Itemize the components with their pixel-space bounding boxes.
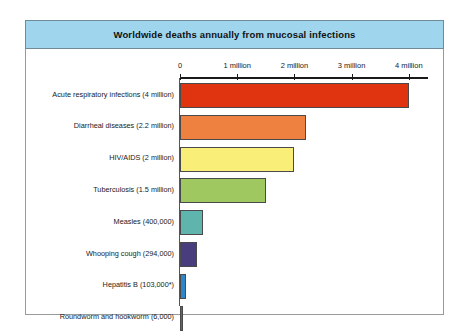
bar	[180, 306, 183, 331]
category-label-row: Diarrheal diseases (2.2 million)	[22, 121, 174, 133]
category-label-row: Roundworm and hookworm (6,000)	[22, 312, 174, 324]
x-tick	[409, 74, 410, 80]
category-label: Whooping cough (294,000)	[22, 249, 174, 258]
x-tick-label: 4 million	[395, 61, 423, 70]
x-axis-line	[180, 77, 428, 79]
category-label-row: HIV/AIDS (2 million)	[22, 153, 174, 165]
category-label: Measles (400,000)	[22, 217, 174, 226]
category-label-row: Acute respiratory infections (4 million)	[22, 90, 174, 102]
bar	[180, 147, 294, 172]
x-tick	[180, 74, 181, 80]
x-tick-label: 1 million	[223, 61, 251, 70]
bar	[180, 178, 266, 203]
category-label-row: Tuberculosis (1.5 million)	[22, 185, 174, 197]
plot-area: 01 million2 million3 million4 million Ac…	[0, 0, 471, 335]
bar	[180, 83, 409, 108]
category-label: Hepatitis B (103,000*)	[22, 280, 174, 289]
x-tick	[352, 74, 353, 80]
x-tick-label: 0	[178, 61, 182, 70]
x-tick-label: 2 million	[281, 61, 309, 70]
category-label: Acute respiratory infections (4 million)	[22, 90, 174, 99]
category-label: Roundworm and hookworm (6,000)	[22, 312, 174, 321]
x-tick	[294, 74, 295, 80]
category-label-row: Whooping cough (294,000)	[22, 249, 174, 261]
bar	[180, 242, 197, 267]
bar	[180, 115, 306, 140]
bar	[180, 274, 186, 299]
category-label: Diarrheal diseases (2.2 million)	[22, 121, 174, 130]
category-label-row: Measles (400,000)	[22, 217, 174, 229]
bar	[180, 210, 203, 235]
category-label: HIV/AIDS (2 million)	[22, 153, 174, 162]
category-label-row: Hepatitis B (103,000*)	[22, 280, 174, 292]
category-label: Tuberculosis (1.5 million)	[22, 185, 174, 194]
chart-figure: Worldwide deaths annually from mucosal i…	[0, 0, 471, 335]
x-tick-label: 3 million	[338, 61, 366, 70]
x-tick	[237, 74, 238, 80]
